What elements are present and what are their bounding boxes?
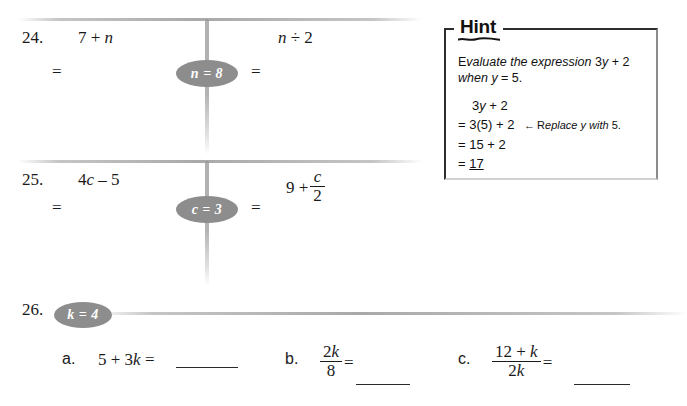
problem-26-part-a-letter: a. (62, 350, 75, 368)
problem-26-part-c-fraction-numerator: 12 + k (492, 343, 541, 362)
problem-24-left-equals: = (52, 62, 62, 82)
problem-24-right-equals: = (251, 62, 261, 82)
problem-24-left-expression-text: 7 + n (78, 28, 113, 47)
problem-26-part-c-expression: 12 + k2k= (490, 345, 552, 383)
hint-step-1: 3y + 2 (458, 96, 654, 115)
problem-25-fraction-numerator: c (310, 168, 325, 187)
hint-step-2-row: = 3(5) + 2 ← Replace y with 5. (458, 115, 654, 135)
hint-title-underline-icon (458, 37, 500, 42)
hint-title-tab: Hint (454, 16, 503, 38)
problem-number-24: 24. (22, 28, 43, 48)
hint-step-2-annotation: ← Replace y with 5. (518, 119, 621, 131)
problem-25-left-equals: = (52, 198, 62, 218)
hint-step-4-equals: = (458, 156, 466, 171)
problem-26-part-b-fraction-numerator: 2k (320, 343, 342, 362)
problem-24-right-expression-text: n ÷ 2 (278, 28, 313, 47)
horizontal-rule-top (18, 18, 422, 21)
hint-step-4-value: 17 (469, 156, 483, 171)
problem-25-fraction-denominator: 2 (310, 187, 325, 206)
problem-26-part-a-expression-text: 5 + 3k (98, 350, 141, 369)
problem-24-value-badge: n = 8 (176, 60, 238, 87)
problem-26-part-b-answer-blank[interactable] (356, 383, 410, 385)
problem-26-part-c-equals: = (543, 353, 553, 372)
problem-26-part-b-letter: b. (285, 350, 298, 368)
problem-26-part-b-fraction-denominator: 8 (320, 362, 342, 381)
hint-step-2: = 3(5) + 2 (458, 117, 514, 132)
problem-24-left-expression: 7 + n (78, 28, 113, 48)
problem-26-part-c-fraction-denominator: 2k (492, 362, 541, 381)
hint-lead: Evaluate the expression 3y + 2 when y = … (458, 54, 654, 86)
problem-26-part-b-expression: 2k8= (318, 345, 354, 383)
problem-26-part-c-letter: c. (458, 350, 470, 368)
hint-step-2-note: Replace y with 5. (537, 119, 621, 131)
problem-25-right-equals: = (251, 198, 261, 218)
problem-26-part-c-answer-blank[interactable] (574, 383, 630, 385)
problem-26-part-a-expression: 5 + 3k = (98, 350, 154, 370)
horizontal-rule-middle (18, 160, 422, 163)
problem-26-part-a-equals: = (145, 350, 155, 369)
hint-step-4: = 17 (458, 154, 654, 173)
horizontal-rule-problem-26 (92, 312, 687, 315)
problem-26-part-c-fraction: 12 + k2k (492, 343, 541, 381)
problem-25-right-expression: 9 +c2 (286, 170, 327, 208)
hint-lead-line-2: when y = 5. (458, 71, 522, 85)
problem-number-26: 26. (22, 300, 43, 320)
problem-26-value-badge: k = 4 (54, 302, 112, 328)
hint-title: Hint (460, 16, 496, 38)
problem-25-left-expression: 4c – 5 (78, 170, 120, 190)
hint-lead-line-1: Evaluate the expression 3y + 2 (458, 55, 629, 69)
problem-26-part-b-equals: = (344, 353, 354, 372)
hint-step-3: = 15 + 2 (458, 135, 654, 154)
vertical-divider-problem-24 (205, 19, 209, 155)
problem-26-part-a-answer-blank[interactable] (176, 366, 238, 368)
hint-body: Evaluate the expression 3y + 2 when y = … (458, 54, 654, 173)
problem-25-left-expression-text: 4c – 5 (78, 170, 120, 189)
left-arrow-icon: ← (524, 119, 534, 131)
problem-25-value-badge: c = 3 (176, 196, 238, 223)
hint-steps: 3y + 2 = 3(5) + 2 ← Replace y with 5. = … (458, 96, 654, 173)
problem-number-25: 25. (22, 170, 43, 190)
problem-24-right-expression: n ÷ 2 (278, 28, 313, 48)
problem-25-right-expression-prefix: 9 + (286, 178, 308, 197)
problem-25-right-fraction: c2 (310, 168, 325, 206)
problem-26-part-b-fraction: 2k8 (320, 343, 342, 381)
vertical-divider-problem-25 (205, 161, 209, 286)
